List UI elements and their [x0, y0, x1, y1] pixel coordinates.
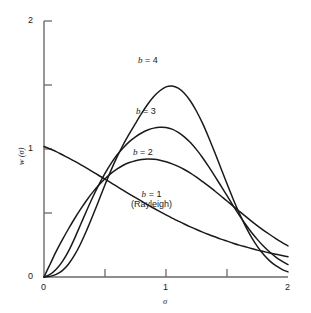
curve-b2 — [44, 159, 288, 277]
plot-canvas — [0, 0, 311, 313]
annotation-b1-value: = 1 — [149, 189, 162, 199]
annotation-rayleigh: (Rayleigh) — [131, 199, 172, 209]
y-tick-label-1: 1 — [28, 144, 33, 153]
annotation-b3: b = 3 — [136, 106, 156, 116]
y-axis-ticks — [44, 21, 52, 213]
y-axis-title: w (σ) — [17, 147, 26, 165]
annotation-b1: b = 1 (Rayleigh) — [131, 189, 172, 210]
x-tick-label-2: 2 — [285, 283, 290, 292]
annotation-b2-symbol: b — [133, 147, 138, 157]
annotation-b3-symbol: b — [136, 106, 141, 116]
x-axis-title: σ — [163, 297, 167, 306]
annotation-b2: b = 2 — [133, 147, 153, 157]
annotation-b4-symbol: b — [138, 55, 143, 65]
data-curves — [44, 86, 288, 277]
y-tick-label-2: 2 — [28, 16, 33, 25]
x-tick-label-1: 1 — [163, 283, 168, 292]
annotation-b4: b = 4 — [138, 55, 158, 65]
annotation-b1-symbol: b — [142, 189, 147, 199]
annotation-b4-value: = 4 — [145, 55, 158, 65]
y-tick-label-0: 0 — [28, 272, 33, 281]
annotation-b3-value: = 3 — [143, 106, 156, 116]
chart-figure: 2 1 0 0 1 2 w (σ) σ b = 4 b = 3 b = 2 b … — [0, 0, 311, 313]
annotation-b2-value: = 2 — [140, 147, 153, 157]
x-axis-ticks — [105, 269, 227, 277]
x-tick-label-0: 0 — [41, 283, 46, 292]
axis-lines — [44, 21, 288, 277]
